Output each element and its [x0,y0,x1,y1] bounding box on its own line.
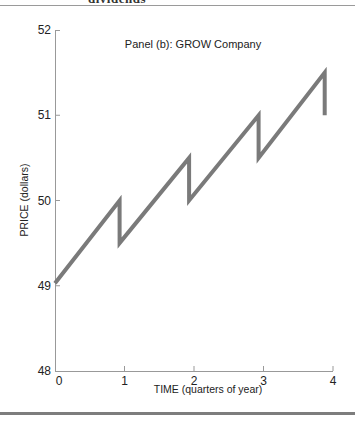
y-tick-label: 49 [38,279,52,293]
y-tick-label: 51 [38,108,52,122]
panel-title: Panel (b): GROW Company [125,38,262,50]
x-tick-label: 0 [56,374,63,388]
axes [55,30,333,372]
y-tick-label: 50 [38,194,52,208]
x-tick-label: 4 [330,374,337,388]
bottom-rule [0,412,355,415]
x-axis-title: TIME (quarters of year) [154,383,263,395]
price-chart: 012344849505152 Panel (b): GROW Company … [0,0,355,424]
y-tick-label: 48 [38,364,52,378]
x-tick-label: 1 [121,374,128,388]
y-tick-label: 52 [38,23,52,37]
price-line [55,73,325,284]
y-axis-title: PRICE (dollars) [18,164,30,237]
